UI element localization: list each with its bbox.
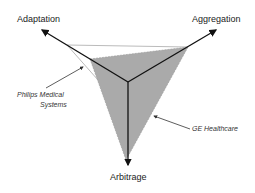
ge-healthcare-label: GE Healthcare <box>192 125 238 132</box>
ge-healthcare-polygon <box>90 47 188 160</box>
philips-label-line2: Systems <box>40 101 67 108</box>
arbitrage-label: Arbitrage <box>110 172 147 182</box>
philips-callout-arrow <box>46 67 83 88</box>
ge-callout-arrow <box>154 116 190 129</box>
adaptation-label: Adaptation <box>17 14 60 24</box>
philips-label-line1: Philips Medical <box>17 91 64 98</box>
aggregation-label: Aggregation <box>192 14 241 24</box>
